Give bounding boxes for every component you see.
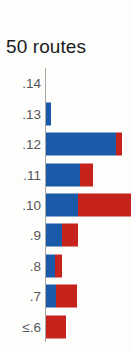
bar-segment-red <box>78 193 131 216</box>
bar-row: .10 <box>0 190 131 220</box>
y-axis-tick-label: .13 <box>1 106 41 121</box>
bar-segment-blue <box>46 163 80 186</box>
chart-title: 50 routes <box>6 36 86 58</box>
bar-segment-red <box>56 285 76 308</box>
stacked-bar-chart: 50 routes .14.13.12.11.10.9.8.7≤.6 <box>0 0 131 351</box>
bar-stack <box>46 285 77 308</box>
bar-segment-blue <box>46 102 51 125</box>
bar-row: .12 <box>0 129 131 159</box>
y-axis-tick-label: .12 <box>1 137 41 152</box>
bar-row: ≤.6 <box>0 312 131 342</box>
bar-segment-blue <box>46 193 78 216</box>
bar-segment-red <box>116 133 122 156</box>
bar-stack <box>46 163 93 186</box>
bar-segment-red <box>46 315 66 338</box>
bar-row: .7 <box>0 281 131 311</box>
y-axis-tick-label: .9 <box>1 228 41 243</box>
bar-row: .8 <box>0 251 131 281</box>
bar-segment-red <box>55 254 63 277</box>
bar-stack <box>46 102 51 125</box>
bar-segment-blue <box>46 285 56 308</box>
y-axis-tick-label: .11 <box>1 167 41 182</box>
bar-row: .14 <box>0 68 131 98</box>
bar-segment-blue <box>46 254 55 277</box>
bar-row: .9 <box>0 220 131 250</box>
y-axis-tick-label: .14 <box>1 76 41 91</box>
y-axis-tick-label: .8 <box>1 258 41 273</box>
y-axis-tick-label: .7 <box>1 289 41 304</box>
bar-row: .11 <box>0 159 131 189</box>
bar-stack <box>46 224 78 247</box>
y-axis-tick-label: .10 <box>1 197 41 212</box>
bar-stack <box>46 193 131 216</box>
bar-row: .13 <box>0 98 131 128</box>
bar-segment-red <box>62 224 78 247</box>
bar-segment-blue <box>46 224 62 247</box>
bar-segment-red <box>80 163 93 186</box>
bar-segment-blue <box>46 133 116 156</box>
bar-stack <box>46 315 66 338</box>
y-axis-tick-label: ≤.6 <box>1 319 41 334</box>
plot-area: .14.13.12.11.10.9.8.7≤.6 <box>0 68 131 342</box>
bar-stack <box>46 133 122 156</box>
bar-stack <box>46 254 62 277</box>
